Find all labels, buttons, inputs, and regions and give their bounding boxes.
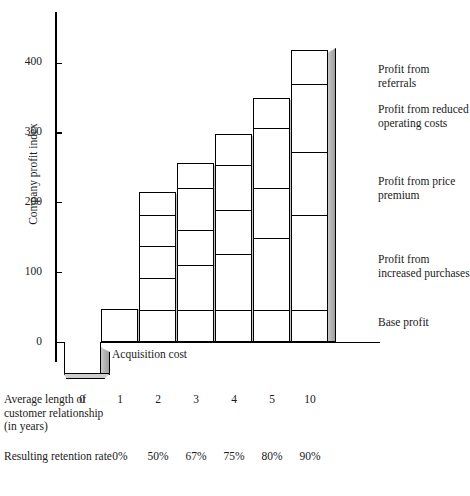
- bar-2-face: [139, 192, 176, 342]
- bottom-row1-cell-4: 4: [214, 393, 254, 407]
- bar-3-div-price-premium: [178, 265, 213, 266]
- bar-10-div-reduced-ops: [292, 152, 327, 153]
- y-tick-label-100: 100: [8, 266, 42, 278]
- y-axis-title: Company profit index: [27, 89, 39, 259]
- bar-5-div-price-premium: [254, 238, 289, 239]
- legend-item-profit-from-price-premium: Profit from price premium: [378, 175, 470, 202]
- y-tick-200: [55, 202, 62, 203]
- legend-item-profit-from-reduced-operating-costs: Profit from reduced operating costs: [378, 103, 470, 130]
- y-tick-100: [55, 272, 62, 273]
- bar-0-side: [100, 347, 110, 375]
- bar-10-face: [291, 50, 328, 342]
- bottom-row2-cell-3: 67%: [176, 450, 216, 464]
- bar-4-div-price-premium: [216, 254, 251, 255]
- legend-item-profit-from-referrals: Profit from referrals: [378, 63, 470, 90]
- bottom-row1-cell-10: 10: [290, 393, 330, 407]
- bar-4-face: [215, 134, 252, 342]
- y-tick-label-0: 0: [8, 336, 42, 348]
- bar-10-side: [327, 48, 336, 342]
- bar-3-div-referrals: [178, 188, 213, 189]
- bar-10-div-referrals: [292, 84, 327, 85]
- bottom-row2-cell-10: 90%: [290, 450, 330, 464]
- bottom-row1-cell-3: 3: [176, 393, 216, 407]
- bottom-row2-cell-5: 80%: [252, 450, 292, 464]
- bar-5-div-reduced-ops: [254, 188, 289, 189]
- bar-3-div-increased-purchases: [178, 310, 213, 311]
- bar-4-div-referrals: [216, 165, 251, 166]
- bottom-row1-cell-1: 1: [100, 393, 140, 407]
- bar-4-div-reduced-ops: [216, 210, 251, 211]
- y-tick-label-400: 400: [8, 56, 42, 68]
- legend-item-base-profit: Base profit: [378, 316, 470, 330]
- bar-5-div-increased-purchases: [254, 310, 289, 311]
- y-tick-300: [55, 132, 62, 133]
- bar-2-div-referrals: [140, 215, 175, 216]
- bar-2-div-price-premium: [140, 278, 175, 279]
- bar-3-div-reduced-ops: [178, 230, 213, 231]
- bar-1-face: [101, 309, 138, 342]
- bottom-row2-cell-1: 0%: [100, 450, 140, 464]
- bar-0-bottom-face: [64, 373, 110, 379]
- legend-item-profit-from-increased-purchases: Profit from increased purchases: [378, 253, 470, 280]
- bottom-row-label-retention-rate: Resulting retention rate: [4, 450, 114, 464]
- bottom-row2-cell-2: 50%: [138, 450, 178, 464]
- bottom-row1-cell-5: 5: [252, 393, 292, 407]
- bar-5-face: [253, 98, 290, 342]
- bottom-row2-cell-4: 75%: [214, 450, 254, 464]
- bar-5-div-referrals: [254, 128, 289, 129]
- y-tick-400: [55, 63, 62, 64]
- bar-3-face: [177, 163, 214, 342]
- bar-10-div-increased-purchases: [292, 310, 327, 311]
- bottom-row1-cell-2: 2: [138, 393, 178, 407]
- bar-4-div-increased-purchases: [216, 310, 251, 311]
- y-axis-line-lower: [55, 342, 57, 362]
- bar-0-face: [64, 342, 101, 375]
- y-axis-line: [55, 12, 57, 342]
- bar-10-div-price-premium: [292, 215, 327, 216]
- bottom-row1-cell-0: 0: [62, 393, 102, 407]
- bar-2-div-reduced-ops: [140, 246, 175, 247]
- annotation-acquisition-cost: Acquisition cost: [112, 348, 202, 362]
- bar-2-div-increased-purchases: [140, 310, 175, 311]
